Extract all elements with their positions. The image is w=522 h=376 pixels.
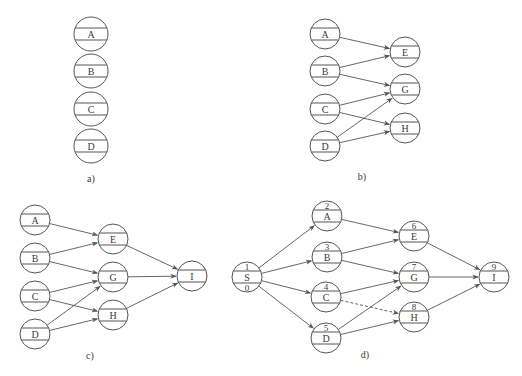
node-s: S10 xyxy=(232,262,262,294)
node-b: B xyxy=(310,56,340,86)
node-number: 3 xyxy=(325,242,330,252)
node-number: 8 xyxy=(412,302,417,312)
node-label: C xyxy=(322,104,329,115)
node-label: G xyxy=(109,272,116,283)
node-number: 4 xyxy=(324,282,329,292)
activity-network-figure: ABCDa)ABCDEGHb)ABCDEGHIc)S10A2B3C4D5E6G7… xyxy=(0,0,522,376)
node-label: D xyxy=(31,329,38,340)
edge-d-to-h xyxy=(50,319,98,331)
diagrams-root: ABCDa)ABCDEGHb)ABCDEGHIc)S10A2B3C4D5E6G7… xyxy=(20,17,509,362)
node-label: B xyxy=(324,252,331,263)
edge-d-to-h xyxy=(340,132,390,143)
node-d: D xyxy=(20,319,50,349)
node-h: H8 xyxy=(399,302,429,333)
node-d: D xyxy=(310,131,340,161)
node-b: B xyxy=(74,54,108,88)
node-label: H xyxy=(410,312,417,323)
node-e: E xyxy=(390,37,420,67)
node-label: A xyxy=(323,211,331,222)
edge-b-to-e xyxy=(50,243,98,255)
figure-svg: ABCDa)ABCDEGHb)ABCDEGHIc)S10A2B3C4D5E6G7… xyxy=(0,0,522,376)
node-c: C4 xyxy=(311,282,341,313)
node-label: G xyxy=(410,272,417,283)
node-label: D xyxy=(321,141,328,152)
node-bottom-value: 0 xyxy=(245,283,250,293)
node-label: C xyxy=(323,292,330,303)
node-a: A2 xyxy=(312,201,342,232)
node-label: B xyxy=(88,66,95,77)
node-i: I xyxy=(177,261,207,291)
edge-c-to-g xyxy=(50,281,98,293)
diagram-b: ABCDEGHb) xyxy=(310,19,420,183)
edge-b-to-e xyxy=(340,56,390,68)
node-label: E xyxy=(110,234,116,245)
node-c: C xyxy=(20,281,50,311)
diagram-a: ABCDa) xyxy=(74,17,108,185)
edge-b-to-e xyxy=(342,240,399,254)
node-d: D xyxy=(74,129,108,163)
edge-b-to-g xyxy=(342,260,399,273)
node-c: C xyxy=(310,94,340,124)
diagram-d: S10A2B3C4D5E6G7H8I9d) xyxy=(232,201,509,362)
node-number: 2 xyxy=(325,201,330,211)
node-e: E6 xyxy=(399,221,429,252)
edge-c-to-g xyxy=(341,281,399,294)
edge-c-to-g xyxy=(340,93,390,105)
node-label: A xyxy=(31,215,39,226)
diagram-c: ABCDEGHIc) xyxy=(20,205,207,362)
edge-h-to-i xyxy=(126,283,177,308)
node-g: G xyxy=(390,74,420,104)
node-b: B3 xyxy=(312,242,342,273)
node-label: S xyxy=(244,272,250,283)
edge-s-to-c xyxy=(262,281,311,293)
node-label: E xyxy=(411,231,417,242)
edge-e-to-i xyxy=(127,245,178,269)
node-label: A xyxy=(87,29,95,40)
node-number: 6 xyxy=(412,221,417,231)
edge-s-to-a xyxy=(259,226,314,268)
node-c: C xyxy=(74,92,108,126)
node-h: H xyxy=(98,300,128,330)
edge-s-to-b xyxy=(262,261,312,273)
node-number: 7 xyxy=(412,262,417,272)
edge-a-to-e xyxy=(50,224,98,236)
edge-d-to-h xyxy=(341,321,399,335)
node-label: C xyxy=(88,104,95,115)
node-label: C xyxy=(32,291,39,302)
edge-e-to-i xyxy=(427,243,479,270)
node-h: H xyxy=(390,113,420,143)
node-g: G xyxy=(98,262,128,292)
edges xyxy=(337,37,392,142)
node-label: D xyxy=(322,333,329,344)
edge-h-to-i xyxy=(427,284,479,310)
edges xyxy=(259,219,480,334)
node-label: B xyxy=(322,66,329,77)
node-number: 1 xyxy=(245,262,250,272)
node-g: G7 xyxy=(399,262,429,293)
node-label: G xyxy=(401,84,408,95)
diagram-caption: b) xyxy=(358,171,366,183)
edge-s-to-d xyxy=(259,286,313,328)
node-i: I9 xyxy=(479,262,509,293)
node-label: E xyxy=(402,47,408,58)
node-label: I xyxy=(492,272,495,283)
edge-d-to-g xyxy=(338,286,401,329)
diagram-caption: d) xyxy=(361,349,369,361)
edge-a-to-e xyxy=(342,219,399,232)
node-number: 5 xyxy=(324,323,329,333)
edge-a-to-e xyxy=(340,37,390,48)
node-a: A xyxy=(74,17,108,51)
node-label: I xyxy=(190,271,193,282)
diagram-caption: c) xyxy=(86,350,94,362)
node-label: H xyxy=(401,123,408,134)
node-a: A xyxy=(20,205,50,235)
node-e: E xyxy=(98,224,128,254)
edge-g-to-i xyxy=(128,276,176,277)
node-d: D5 xyxy=(311,323,341,354)
diagram-caption: a) xyxy=(87,173,95,185)
node-label: D xyxy=(87,141,94,152)
edge-c-to-h xyxy=(341,300,399,313)
edge-b-to-g xyxy=(50,262,98,274)
node-b: B xyxy=(20,243,50,273)
node-number: 9 xyxy=(492,262,497,272)
